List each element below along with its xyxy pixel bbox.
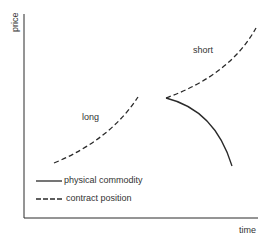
x-axis-label: time	[239, 225, 256, 235]
legend-contract-label: contract position	[66, 193, 132, 203]
chart-canvas	[0, 0, 273, 244]
short-annotation: short	[193, 45, 213, 55]
short-contract-curve	[166, 28, 256, 98]
y-axis-label: price	[10, 12, 20, 32]
long-contract-curve	[54, 97, 138, 163]
long-annotation: long	[82, 112, 99, 122]
legend-physical-label: physical commodity	[64, 175, 143, 185]
physical-commodity-curve	[166, 98, 232, 166]
